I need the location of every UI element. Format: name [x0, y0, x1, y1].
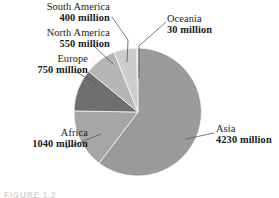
callout-value-asia: 4230 million — [216, 135, 278, 146]
callout-value-oceania: 30 million — [167, 25, 259, 36]
figure-container: South America 400 million North America … — [0, 0, 279, 198]
callout-value-north-america: 550 million — [0, 39, 110, 50]
callout-south-america: South America 400 million — [2, 2, 110, 23]
callout-oceania: Oceania 30 million — [167, 14, 259, 35]
pie-slices — [74, 48, 201, 176]
callout-africa: Africa 1040 million — [0, 128, 88, 149]
callout-value-europe: 750 million — [0, 65, 88, 76]
figure-caption: FIGURE 1.2 — [4, 190, 56, 198]
callout-north-america: North America 550 million — [0, 28, 110, 49]
callout-europe: Europe 750 million — [0, 54, 88, 75]
callout-value-south-america: 400 million — [2, 13, 110, 24]
callout-asia: Asia 4230 million — [216, 124, 278, 145]
callout-value-africa: 1040 million — [0, 139, 88, 150]
